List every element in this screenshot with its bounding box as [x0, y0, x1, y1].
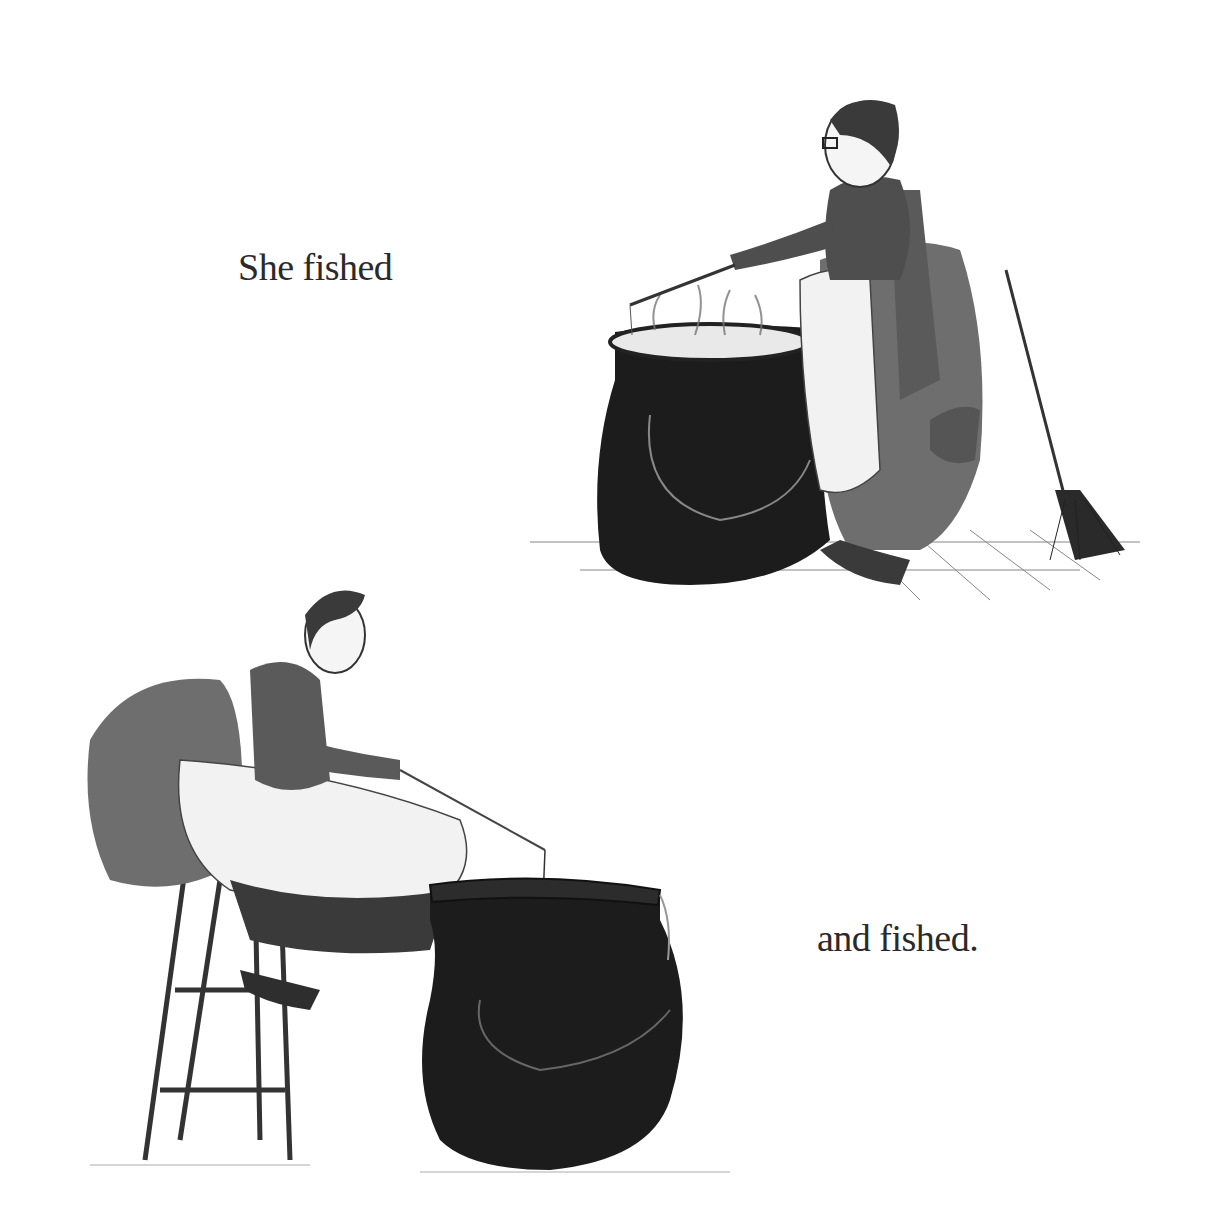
- broom: [1006, 270, 1125, 560]
- cauldron-large: [422, 879, 683, 1170]
- witch-sitting: [88, 591, 467, 1011]
- illustration-standing-witch: [520, 80, 1160, 620]
- fishing-stick: [630, 265, 735, 305]
- caption-she-fished: She fished: [238, 248, 392, 286]
- book-page: She fished: [0, 0, 1227, 1229]
- illustration-sitting-witch: [70, 580, 750, 1180]
- caption-and-fished: and fished.: [817, 919, 978, 957]
